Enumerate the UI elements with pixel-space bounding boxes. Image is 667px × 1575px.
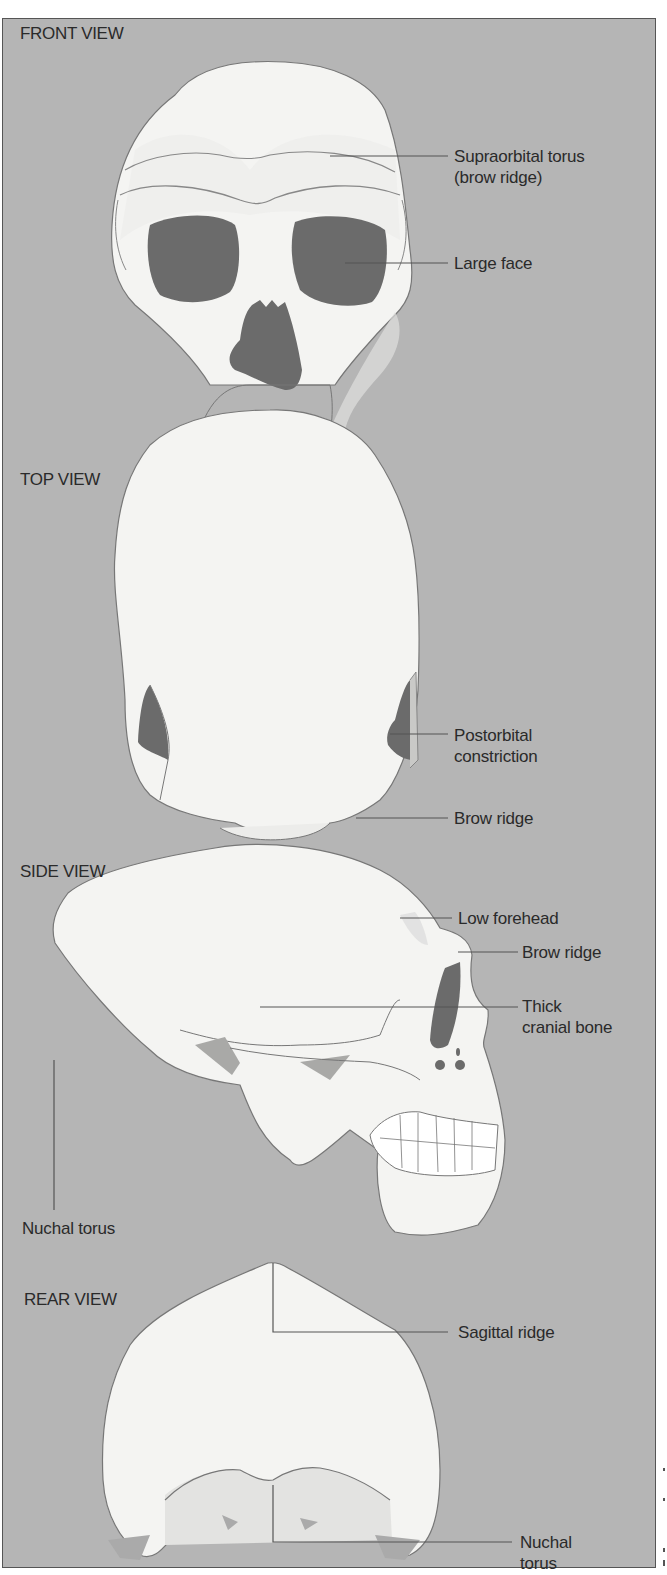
callout-line: cranial bone — [522, 1017, 612, 1038]
margin-mark — [663, 1468, 665, 1471]
callout-line: (brow ridge) — [454, 167, 585, 188]
callout-line: Nuchal — [520, 1532, 572, 1553]
callout-line: Supraorbital torus — [454, 146, 585, 167]
callout-nuchal-torus-rear: Nuchal torus — [520, 1532, 572, 1574]
side-view-title: SIDE VIEW — [20, 862, 105, 882]
margin-mark — [663, 1560, 665, 1566]
rear-view-title: REAR VIEW — [24, 1290, 117, 1310]
callout-line: constriction — [454, 746, 538, 767]
side-view-skull — [53, 844, 518, 1235]
top-view-title: TOP VIEW — [20, 470, 100, 490]
margin-mark — [663, 1548, 665, 1552]
front-view-title: FRONT VIEW — [20, 24, 123, 44]
callout-nuchal-torus-side: Nuchal torus — [22, 1218, 115, 1239]
callout-large-face: Large face — [454, 253, 532, 274]
callout-line: torus — [520, 1553, 572, 1574]
margin-mark — [663, 1498, 665, 1501]
callout-line: Low forehead — [458, 908, 559, 929]
callout-sagittal-ridge: Sagittal ridge — [458, 1322, 554, 1343]
callout-postorbital-constriction: Postorbital constriction — [454, 725, 538, 767]
callout-line: Thick — [522, 996, 612, 1017]
callout-supraorbital-torus: Supraorbital torus (brow ridge) — [454, 146, 585, 188]
top-view-skull — [114, 410, 448, 840]
callout-line: Nuchal torus — [22, 1218, 115, 1239]
callout-line: Large face — [454, 253, 532, 274]
front-view-skull — [112, 61, 448, 466]
callout-low-forehead: Low forehead — [458, 908, 559, 929]
rear-view-skull — [102, 1263, 512, 1560]
skull-illustrations — [0, 0, 667, 1575]
callout-brow-ridge-side: Brow ridge — [522, 942, 601, 963]
callout-line: Brow ridge — [454, 808, 533, 829]
callout-line: Postorbital — [454, 725, 538, 746]
callout-thick-cranial-bone: Thick cranial bone — [522, 996, 612, 1038]
callout-line: Brow ridge — [522, 942, 601, 963]
callout-line: Sagittal ridge — [458, 1322, 554, 1343]
callout-brow-ridge-top: Brow ridge — [454, 808, 533, 829]
